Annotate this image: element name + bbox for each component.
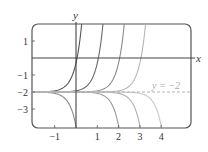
asymptote-label: y = −2 — [151, 80, 180, 91]
y-tick-label: −3 — [17, 104, 28, 115]
solution-curve — [29, 0, 108, 92]
x-tick-label: 1 — [95, 131, 100, 142]
solution-curve — [29, 92, 129, 152]
y-tick-label: −1 — [17, 70, 28, 81]
solution-curve — [29, 92, 149, 152]
x-axis-label: x — [195, 52, 201, 64]
x-tick-label: 2 — [116, 131, 121, 142]
solution-curve — [29, 0, 87, 92]
y-axis-label: y — [72, 9, 78, 21]
solution-curves — [29, 0, 171, 152]
x-tick-label: −1 — [49, 131, 60, 142]
x-tick-label: 3 — [137, 131, 142, 142]
solution-curve — [29, 92, 86, 152]
x-tick-label: 4 — [159, 131, 164, 142]
solution-curve — [29, 92, 171, 152]
chart: −112341−1−2−3 x y y = −2 — [0, 0, 208, 152]
y-tick-label: −2 — [17, 87, 28, 98]
plot-frame — [32, 24, 191, 128]
solution-curve — [29, 0, 150, 92]
y-tick-label: 1 — [23, 36, 28, 47]
